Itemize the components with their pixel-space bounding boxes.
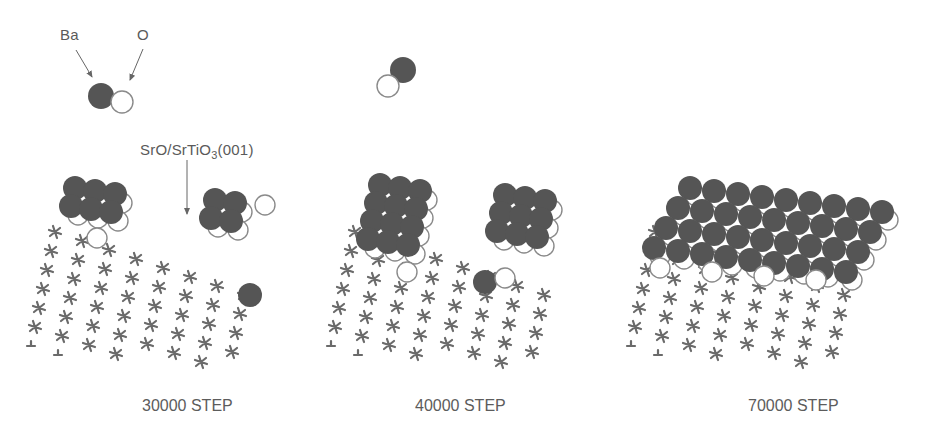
o-label: O [137, 26, 149, 43]
legend-molecule [76, 49, 143, 113]
ba-label: Ba [60, 26, 79, 43]
ba-atom-icon [88, 83, 114, 109]
ba-arrow [76, 50, 92, 77]
caption-40000: 40000 STEP [415, 397, 506, 415]
o-arrow [130, 49, 143, 80]
o-atom-icon [111, 91, 133, 113]
caption-70000: 70000 STEP [748, 397, 839, 415]
simulation-diagram [0, 0, 935, 430]
caption-30000: 30000 STEP [142, 397, 233, 415]
substrate-label: SrO/SrTiO3(001) [140, 141, 254, 161]
incoming-molecule [377, 57, 416, 97]
